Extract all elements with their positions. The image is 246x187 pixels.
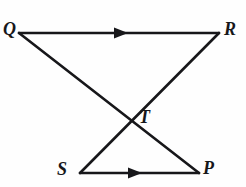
arrow-marker-qr-icon (114, 28, 128, 39)
segment-SR (80, 33, 219, 173)
vertex-label-P: P (203, 159, 214, 177)
vertex-label-Q: Q (3, 20, 16, 38)
geometry-figure: Q R T S P (0, 0, 246, 187)
vertex-label-R: R (224, 20, 236, 38)
segment-QP (19, 33, 199, 173)
vertex-label-T: T (139, 108, 150, 126)
vertex-label-S: S (57, 160, 67, 178)
arrow-marker-sp-icon (128, 168, 142, 179)
